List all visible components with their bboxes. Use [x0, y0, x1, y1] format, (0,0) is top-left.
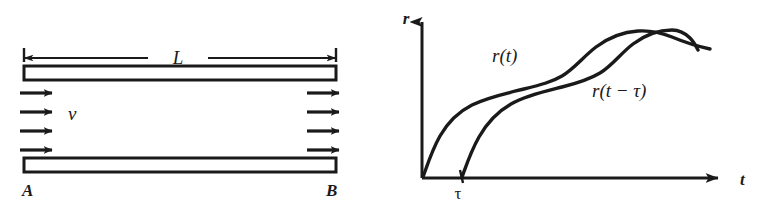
- inlet-label-a: A: [21, 181, 33, 200]
- y-axis-label: r: [403, 9, 410, 28]
- channel-schematic-panel: L v A B: [0, 0, 400, 208]
- channel-schematic-svg: L v A B: [0, 0, 400, 208]
- response-plot-panel: r t τ r(t) r(t − τ): [400, 0, 761, 208]
- x-axis-label: t: [740, 170, 746, 189]
- outlet-label-b: B: [325, 181, 337, 200]
- outlet-flow-arrows: [307, 93, 339, 150]
- curve-r-t: [423, 31, 710, 177]
- curve-label-r-t: r(t): [492, 45, 517, 67]
- lower-plate: [24, 158, 336, 172]
- upper-plate: [24, 66, 336, 80]
- inlet-flow-arrows: [20, 93, 52, 150]
- figure-root: L v A B: [0, 0, 761, 208]
- response-plot-svg: r t τ r(t) r(t − τ): [400, 0, 761, 208]
- tau-tick-label: τ: [455, 184, 462, 203]
- curve-label-r-t-minus-tau: r(t − τ): [592, 80, 646, 102]
- velocity-label: v: [68, 103, 77, 124]
